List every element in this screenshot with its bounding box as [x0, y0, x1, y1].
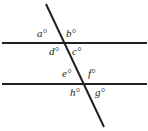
- angle-label-h: h°: [70, 87, 80, 98]
- angle-label-a: a°: [37, 28, 47, 39]
- transversal-line: [46, 4, 104, 127]
- angle-label-f: f°: [88, 68, 95, 79]
- angle-label-c: c°: [72, 46, 81, 57]
- angle-label-d: d°: [49, 46, 59, 57]
- angle-label-e: e°: [62, 68, 71, 79]
- angle-label-g: g°: [95, 87, 105, 98]
- geometry-figure: a° b° d° c° e° f° h° g°: [0, 0, 148, 131]
- angle-label-b: b°: [66, 28, 76, 39]
- geometry-canvas: [0, 0, 148, 131]
